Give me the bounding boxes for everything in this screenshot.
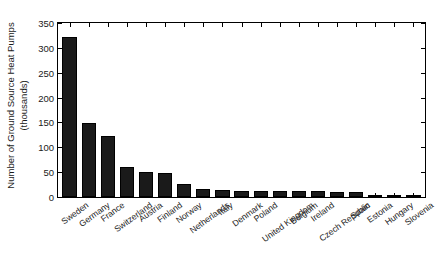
- bar[interactable]: [387, 195, 401, 197]
- y-axis-title-line-1: Number of Ground Source Heat Pumps: [5, 22, 18, 188]
- x-label-slot: Italy: [212, 199, 231, 259]
- x-label-slot: Hungary: [384, 199, 403, 259]
- bar[interactable]: [196, 189, 210, 197]
- bar[interactable]: [177, 184, 191, 197]
- y-axis-tick-mark: 0: [58, 197, 62, 198]
- y-axis-tick-label: 350: [38, 18, 54, 29]
- bar[interactable]: [82, 123, 96, 197]
- x-label-slot: Czech Republic: [327, 199, 346, 259]
- bar-slot: [404, 23, 423, 197]
- bar-slot: [79, 23, 98, 197]
- chart-figure: Number of Ground Source Heat Pumps (thou…: [0, 0, 439, 261]
- x-label-slot: Poland: [250, 199, 269, 259]
- bar[interactable]: [368, 195, 382, 197]
- x-label-slot: Switzerland: [116, 199, 135, 259]
- y-axis-tick-label: 50: [43, 167, 54, 178]
- bar-slot: [60, 23, 79, 197]
- bar-slot: [347, 23, 366, 197]
- y-axis-title-line-2: (thousands): [17, 22, 30, 188]
- bar[interactable]: [62, 37, 76, 197]
- bar[interactable]: [120, 167, 134, 197]
- bar-slot: [366, 23, 385, 197]
- bar[interactable]: [311, 191, 325, 197]
- y-axis-tick-label: 150: [38, 117, 54, 128]
- bar[interactable]: [234, 191, 248, 197]
- bar[interactable]: [158, 173, 172, 197]
- bar[interactable]: [349, 192, 363, 197]
- bar[interactable]: [101, 136, 115, 197]
- y-axis-tick-label: 300: [38, 42, 54, 53]
- y-axis-tick-label: 0: [49, 192, 54, 203]
- bar-slot: [270, 23, 289, 197]
- bar-series: [58, 23, 425, 197]
- y-axis-tick-mark-right: [421, 197, 425, 198]
- bar-slot: [385, 23, 404, 197]
- plot-area: 050100150200250300350: [57, 22, 426, 198]
- bar-slot: [289, 23, 308, 197]
- bar[interactable]: [292, 191, 306, 197]
- bar[interactable]: [139, 172, 153, 197]
- x-label-slot: Estonia: [365, 199, 384, 259]
- x-label-slot: Slovenia: [403, 199, 422, 259]
- y-axis-tick-label: 200: [38, 92, 54, 103]
- x-label-slot: Netherlands: [193, 199, 212, 259]
- x-label-slot: Sweden: [59, 199, 78, 259]
- x-label-slot: Austria: [135, 199, 154, 259]
- bar[interactable]: [215, 190, 229, 197]
- bar-slot: [98, 23, 117, 197]
- bar-slot: [213, 23, 232, 197]
- x-label-slot: United Kingdom: [269, 199, 288, 259]
- bar-slot: [117, 23, 136, 197]
- bar-slot: [156, 23, 175, 197]
- x-label-slot: Germany: [78, 199, 97, 259]
- bar-slot: [136, 23, 155, 197]
- bar[interactable]: [254, 191, 268, 197]
- bar[interactable]: [273, 191, 287, 197]
- x-label-slot: Spain: [346, 199, 365, 259]
- y-axis-tick-label: 250: [38, 67, 54, 78]
- y-axis-tick-label: 100: [38, 142, 54, 153]
- x-label-slot: Denmark: [231, 199, 250, 259]
- y-axis-title: Number of Ground Source Heat Pumps (thou…: [0, 0, 34, 210]
- bar-slot: [232, 23, 251, 197]
- x-label-slot: Belgium: [288, 199, 307, 259]
- bar[interactable]: [406, 195, 420, 197]
- x-label-slot: Finland: [155, 199, 174, 259]
- x-axis-tick-labels: SwedenGermanyFranceSwitzerlandAustriaFin…: [57, 199, 424, 259]
- x-axis-tick-label: Slovenia: [402, 200, 435, 227]
- bar-slot: [328, 23, 347, 197]
- bar-slot: [194, 23, 213, 197]
- bar[interactable]: [330, 192, 344, 197]
- x-label-slot: Ireland: [307, 199, 326, 259]
- bar-slot: [308, 23, 327, 197]
- bar-slot: [251, 23, 270, 197]
- bar-slot: [175, 23, 194, 197]
